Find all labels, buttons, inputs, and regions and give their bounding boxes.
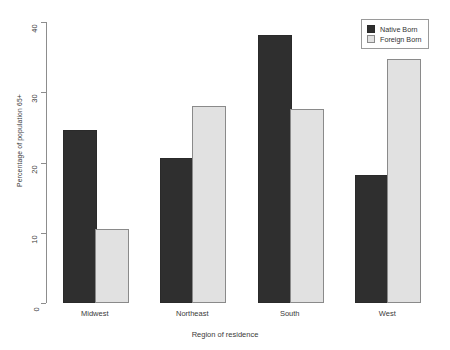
bar-midwest-foreign-born: [95, 229, 129, 303]
y-axis-tick-label: 10: [0, 228, 38, 238]
legend-item-native-born: Native Born: [367, 24, 422, 34]
legend-swatch-native-born-icon: [367, 25, 375, 33]
plot-area: [46, 22, 436, 303]
y-axis-tick-label: 20: [0, 158, 38, 168]
bar-midwest-native-born: [63, 130, 97, 303]
y-axis-tick-label-text: 30: [29, 95, 38, 103]
y-axis-tick-label-text: 10: [29, 235, 38, 243]
y-axis-tick-label: 40: [0, 17, 38, 27]
y-axis-tick-label-text: 40: [29, 24, 38, 32]
legend-label-native-born: Native Born: [380, 25, 418, 34]
y-axis-tick-label: 0: [0, 298, 38, 308]
y-axis-tick-label: 30: [0, 87, 38, 97]
x-axis-tick-label-south: South: [241, 309, 339, 318]
bar-west-foreign-born: [387, 59, 421, 303]
y-axis-tick-label-text: 0: [31, 307, 40, 311]
bar-northeast-native-born: [160, 158, 194, 303]
bar-west-native-born: [355, 175, 389, 303]
bar-south-foreign-born: [290, 109, 324, 303]
legend-label-foreign-born: Foreign Born: [380, 35, 422, 44]
x-axis-tick-label-midwest: Midwest: [46, 309, 144, 318]
bar-northeast-foreign-born: [192, 106, 226, 303]
y-axis-tick-label-text: 20: [29, 165, 38, 173]
x-axis-tick-label-west: West: [339, 309, 437, 318]
page-caption-artifact: [8, 344, 308, 350]
x-axis-tick-label-northeast: Northeast: [144, 309, 242, 318]
legend: Native Born Foreign Born: [361, 19, 429, 49]
y-axis-title: Percentage of population 65+: [12, 0, 26, 281]
bar-chart-figure: Percentage of population 65+ 010203040 M…: [0, 0, 450, 350]
legend-item-foreign-born: Foreign Born: [367, 34, 422, 44]
x-axis-title: Region of residence: [0, 330, 450, 339]
y-axis-tick: [41, 303, 46, 304]
legend-swatch-foreign-born-icon: [367, 35, 375, 43]
bar-south-native-born: [258, 35, 292, 303]
y-axis-title-label: Percentage of population 65+: [16, 94, 23, 187]
